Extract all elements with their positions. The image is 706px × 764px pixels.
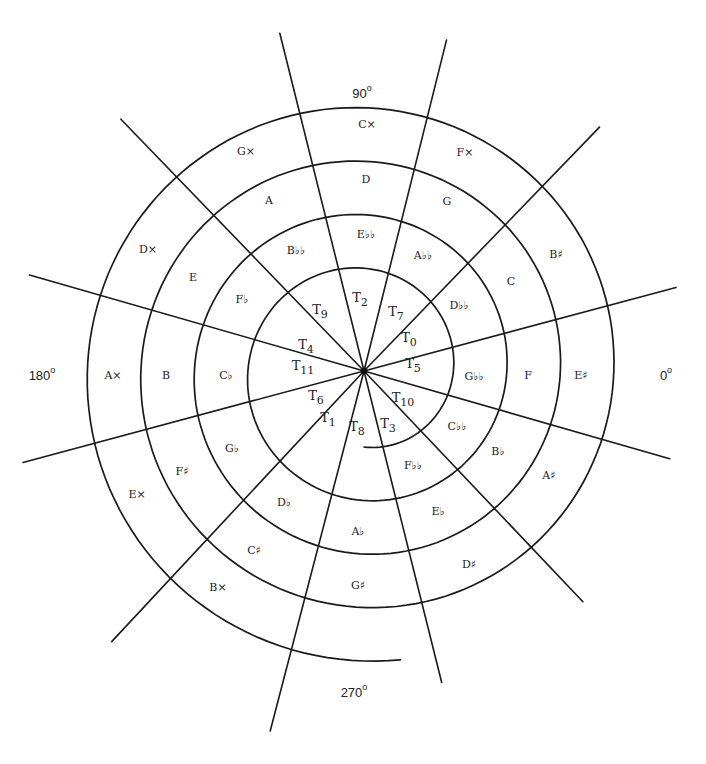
note-label: F♭♭: [404, 459, 422, 472]
note-label: F♭: [236, 293, 249, 306]
note-label: A♯: [541, 469, 555, 482]
note-label: E♯: [574, 369, 587, 382]
radial-line-1: [364, 40, 447, 371]
center-point: [361, 368, 367, 374]
note-label: F♯: [176, 465, 189, 478]
transposition-label-t0: T0: [401, 330, 417, 350]
note-label: E♭♭: [357, 228, 375, 241]
radial-line-4: [364, 371, 670, 459]
note-label: E: [189, 271, 197, 284]
note-label: C×: [358, 118, 376, 131]
degree-label-180: 180o: [29, 365, 56, 383]
transposition-label-t7: T7: [388, 304, 404, 324]
transposition-label-t11: T11: [292, 358, 315, 378]
note-label: D: [362, 173, 371, 186]
transposition-label-t8: T8: [349, 419, 365, 439]
note-label: D×: [139, 243, 157, 256]
note-label: B♭♭: [287, 244, 305, 257]
note-label: A×: [103, 369, 121, 382]
degree-label-90: 90o: [352, 83, 371, 101]
note-label: C♭♭: [448, 420, 467, 433]
note-label: A♭♭: [413, 249, 432, 262]
note-label: G♭: [225, 442, 239, 455]
radial-line-6: [364, 371, 442, 683]
note-label: G♯: [351, 579, 365, 592]
transposition-label-t2: T2: [352, 290, 368, 310]
transposition-label-t5: T5: [405, 356, 421, 376]
note-label: C♯: [247, 544, 261, 557]
degree-label-0: 0o: [660, 365, 672, 383]
note-label: D♭♭: [449, 299, 468, 312]
note-label: G: [443, 195, 452, 208]
note-label: A: [264, 194, 274, 207]
radial-line-10: [30, 275, 365, 371]
transposition-label-t6: T6: [308, 388, 324, 408]
note-label: G×: [237, 145, 255, 158]
note-label: E×: [128, 488, 145, 501]
transposition-label-t3: T3: [380, 416, 396, 436]
note-label: F×: [457, 146, 474, 159]
note-label: B♯: [549, 248, 562, 261]
note-label: A♭: [350, 525, 364, 538]
note-label: C♭: [219, 369, 233, 382]
degree-labels: 90o0o180o270o: [29, 83, 672, 700]
note-label: C: [507, 275, 515, 288]
transposition-label-t10: T10: [392, 390, 415, 410]
note-label: D♯: [462, 558, 476, 571]
radial-divider-lines: [23, 33, 676, 731]
transposition-label-t9: T9: [312, 302, 328, 322]
note-label: B×: [209, 581, 226, 594]
radial-line-2: [364, 127, 600, 371]
degree-label-270: 270o: [341, 682, 368, 700]
note-label: E♭: [431, 505, 444, 518]
transposition-label-t1: T1: [320, 410, 336, 430]
note-labels: D♭♭G♭♭C♭♭F♭♭A♭♭E♭♭B♭♭F♭C♭G♭D♭A♭E♭B♭FCGDA…: [103, 118, 587, 594]
note-label: D♭: [277, 496, 291, 509]
note-label: B♭: [491, 445, 504, 458]
note-label: B: [162, 369, 170, 382]
note-label: G♭♭: [464, 370, 483, 383]
note-label: F: [524, 369, 532, 382]
circle-of-fifths-spiral-diagram: T0T5T10T3T8T1T6T11T4T9T2T7 D♭♭G♭♭C♭♭F♭♭A…: [0, 0, 706, 764]
